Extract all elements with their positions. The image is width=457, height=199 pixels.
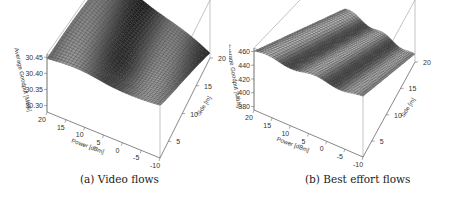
svg-text:Side [m]: Side [m] (195, 95, 212, 117)
svg-text:15: 15 (409, 85, 417, 92)
svg-text:-5: -5 (133, 154, 139, 161)
chart-video-flows: 20151050-5-10Power [dBm]5101520Side [m]3… (0, 0, 228, 170)
surface-plot-video: 20151050-5-10Power [dBm]5101520Side [m]3… (0, 0, 228, 170)
svg-text:420: 420 (238, 76, 250, 83)
svg-text:20: 20 (423, 59, 431, 66)
svg-text:0: 0 (115, 147, 119, 154)
svg-text:10: 10 (76, 131, 84, 138)
svg-text:15: 15 (263, 122, 271, 129)
svg-text:20: 20 (245, 114, 253, 121)
svg-text:-5: -5 (337, 153, 343, 160)
svg-text:460: 460 (238, 48, 250, 55)
svg-text:15: 15 (57, 124, 65, 131)
svg-text:-10: -10 (150, 162, 160, 169)
svg-text:Side [m]: Side [m] (400, 96, 417, 118)
svg-text:10: 10 (281, 130, 289, 137)
svg-text:0: 0 (320, 145, 324, 152)
svg-text:5: 5 (176, 138, 180, 145)
svg-text:20: 20 (218, 55, 226, 62)
svg-text:-10: -10 (353, 161, 363, 168)
svg-text:5: 5 (97, 139, 101, 146)
svg-text:30.45: 30.45 (25, 54, 43, 61)
svg-text:5: 5 (302, 138, 306, 145)
caption-best-effort-flows: (b) Best effort flows (305, 173, 410, 185)
svg-text:20: 20 (38, 116, 46, 123)
svg-text:5: 5 (380, 138, 384, 145)
svg-text:15: 15 (204, 83, 212, 90)
caption-video-flows: (a) Video flows (80, 173, 159, 185)
chart-best-effort-flows: 20151050-5-10Power [dBm]5101520Side [m]3… (229, 0, 457, 170)
svg-text:440: 440 (238, 62, 250, 69)
svg-text:30.40: 30.40 (25, 70, 43, 77)
surface-plot-best-effort: 20151050-5-10Power [dBm]5101520Side [m]3… (229, 0, 457, 170)
